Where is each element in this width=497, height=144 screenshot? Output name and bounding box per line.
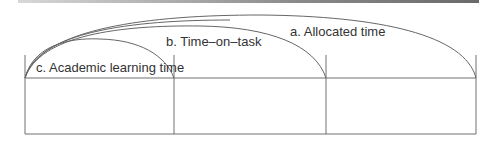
label-academic-learning-time: c. Academic learning time xyxy=(36,60,184,75)
time-diagram: c. Academic learning time b. Time–on–tas… xyxy=(0,0,497,144)
label-allocated-time: a. Allocated time xyxy=(290,24,385,39)
label-time-on-task: b. Time–on–task xyxy=(166,34,262,49)
